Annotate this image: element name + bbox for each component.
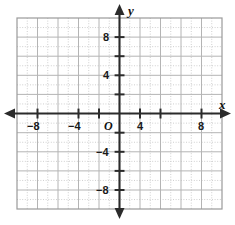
coordinate-grid-svg (0, 0, 235, 225)
y-tick-label-neg-8: −8 (96, 185, 109, 196)
x-tick-label-pos-4: 4 (137, 121, 143, 132)
y-axis-arrow-down (115, 208, 125, 219)
y-tick-label-pos-8: 8 (103, 32, 109, 43)
coordinate-plane-figure: −8 −4 4 8 8 4 −4 −8 O y x (0, 0, 235, 225)
y-axis-arrow-up (115, 4, 125, 15)
x-tick-label-neg-4: −4 (68, 121, 81, 132)
y-axis-label: y (128, 4, 134, 17)
x-tick-label-pos-8: 8 (198, 121, 204, 132)
y-tick-label-neg-4: −4 (96, 147, 109, 158)
origin-label: O (104, 120, 113, 132)
x-axis-arrow-left (4, 109, 15, 119)
x-axis-label: x (219, 98, 226, 111)
y-tick-label-pos-4: 4 (103, 70, 109, 81)
x-tick-label-neg-8: −8 (27, 121, 40, 132)
